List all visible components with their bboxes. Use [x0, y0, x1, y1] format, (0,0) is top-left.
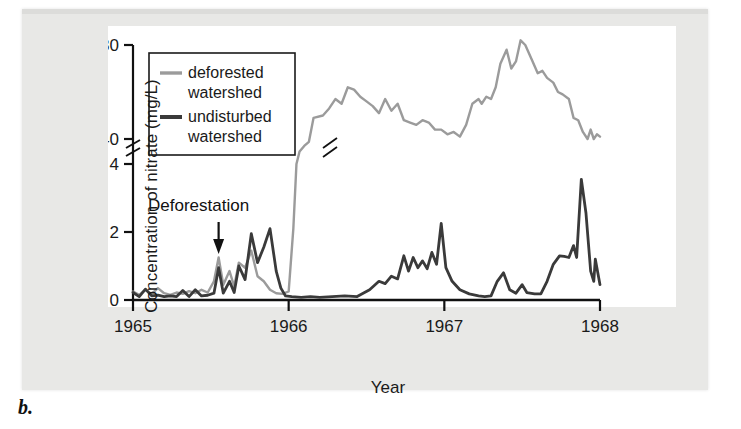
- y-tick-label: 0: [110, 291, 119, 310]
- y-tick-label: 40: [108, 130, 119, 149]
- deforestation-arrow-icon: [213, 222, 224, 254]
- y-tick-label: 4: [110, 155, 119, 174]
- x-tick-label: 1968: [581, 317, 619, 336]
- nitrate-concentration-line-chart: 0244080 1965196619671968 deforested: [108, 26, 676, 366]
- deforestation-label: Deforestation: [148, 196, 249, 215]
- legend-label-undisturbed-line1: undisturbed: [188, 108, 272, 125]
- y-tick-label: 80: [108, 36, 119, 55]
- page-top-edge: [22, 9, 708, 14]
- legend-label-deforested-line2: watershed: [187, 84, 262, 101]
- figure-page: 0244080 1965196619671968 deforested: [0, 0, 741, 429]
- panel-letter-label: b.: [18, 396, 33, 419]
- chart-plot-area: 0244080 1965196619671968 deforested: [108, 26, 676, 307]
- series-axis-break-marker: [323, 138, 337, 157]
- y-tick-label: 2: [110, 223, 119, 242]
- deforestation-annotation: Deforestation: [148, 196, 249, 254]
- legend-label-deforested-line1: deforested: [188, 64, 264, 81]
- x-tick-label: 1967: [425, 317, 463, 336]
- x-axis-ticks: 1965196619671968: [114, 300, 619, 336]
- x-axis-title: Year: [108, 378, 668, 398]
- y-axis-ticks: 0244080: [108, 36, 133, 310]
- chart-legend: deforested watershed undisturbed watersh…: [149, 53, 295, 155]
- legend-label-undisturbed-line2: watershed: [187, 128, 262, 145]
- y-axis-title: Concentration of nitrate (mg/L): [142, 66, 162, 326]
- x-tick-label: 1966: [270, 317, 308, 336]
